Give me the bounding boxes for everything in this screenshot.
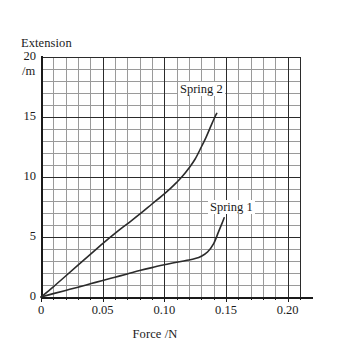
- y-tick-label: 10: [10, 170, 36, 183]
- y-axis-label: Extension /m: [8, 22, 72, 106]
- x-axis-label: Force /N: [0, 327, 310, 341]
- x-tick-label: 0.15: [206, 304, 246, 317]
- y-tick-label: 20: [10, 50, 36, 63]
- data-curves: [41, 113, 224, 297]
- x-tick-label: 0.20: [268, 304, 308, 317]
- x-tick-label: 0.05: [83, 304, 123, 317]
- y-tick-label: 5: [10, 230, 36, 243]
- spring-extension-chart: Extension /m Force /N 0510152000.050.100…: [0, 0, 340, 352]
- x-tick-label: 0.10: [144, 304, 184, 317]
- series-label-spring-2: Spring 2: [178, 82, 225, 96]
- y-tick-label: 0: [10, 290, 36, 303]
- series-label-spring-1: Spring 1: [208, 200, 255, 214]
- y-axis-label-line1: Extension: [21, 36, 72, 50]
- x-tick-label: 0: [21, 304, 61, 317]
- y-axis-label-line2: /m: [22, 64, 72, 78]
- curve-spring-2: [41, 113, 217, 297]
- y-tick-label: 15: [10, 110, 36, 123]
